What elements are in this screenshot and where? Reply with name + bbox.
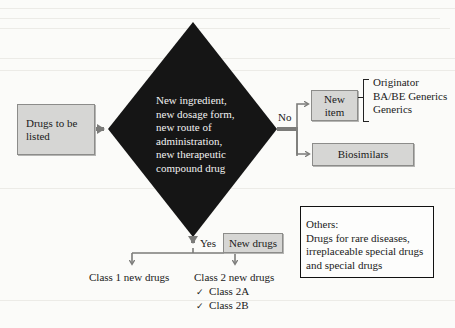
others-title: Others: [306,218,433,232]
biosimilars-box: Biosimilars [312,143,414,166]
subtype-generics: Generics [373,103,447,117]
new-item-subtypes: Originator BA/BE Generics Generics [373,76,447,117]
decision-line: new dosage form, [156,108,235,122]
check-icon: ✓ [196,287,204,297]
bracket-tick [358,97,363,98]
class2-new-drugs: Class 2 new drugs ✓ Class 2A ✓ Class 2B [194,271,274,314]
new-item-label-line1: New [324,93,345,106]
no-branch-label: No [278,111,291,124]
subtype-ba-be-generics: BA/BE Generics [373,90,447,104]
subtype-originator: Originator [373,76,447,90]
class2a-item: ✓ Class 2A [194,285,274,300]
class1-new-drugs-label: Class 1 new drugs [89,271,169,284]
class2-new-drugs-label: Class 2 new drugs [194,271,274,285]
others-line: irreplaceable special drugs [306,245,433,259]
decision-line: administration, [156,135,235,149]
start-box-drugs-to-be-listed: Drugs to be listed [17,104,95,155]
others-line: and special drugs [306,259,433,273]
decision-criteria-text: New ingredient, new dosage form, new rou… [156,94,235,175]
check-icon: ✓ [196,301,204,311]
others-box: Others: Drugs for rare diseases, irrepla… [300,206,434,278]
new-item-box: New item [311,90,358,121]
decision-line: new therapeutic [156,148,235,162]
decision-line: New ingredient, [156,94,235,108]
class2a-label: Class 2A [209,285,249,297]
class2b-item: ✓ Class 2B [194,299,274,314]
class2b-label: Class 2B [209,299,248,311]
new-drugs-label: New drugs [229,237,277,250]
others-line: Drugs for rare diseases, [306,232,433,246]
subtype-bracket [363,79,369,122]
decision-line: new route of [156,121,235,135]
new-item-label-line2: item [325,106,345,119]
decision-line: compound drug [156,162,235,176]
yes-branch-label: Yes [200,237,216,250]
biosimilars-label: Biosimilars [338,148,389,161]
start-label: Drugs to be listed [26,117,86,143]
new-drugs-box: New drugs [223,233,283,253]
